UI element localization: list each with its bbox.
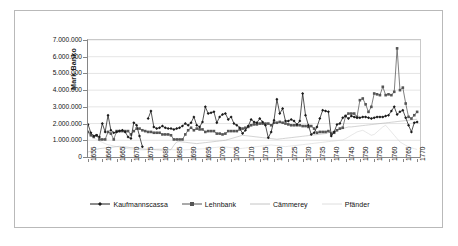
x-axis-tick-mark [346,159,347,162]
x-axis-tick-mark [360,159,361,162]
chart-page: Mark Banko 01.000.0002.000.0003.000.0004… [0,0,458,246]
x-axis-tick-label: 1705 [233,147,240,161]
x-axis-tick-mark [331,159,332,162]
legend-swatch-square-icon [182,200,202,208]
y-axis-tick-label: 3.000.000 [53,103,82,111]
series-lehnbank [88,47,418,141]
x-axis-tick-label: 1725 [291,147,298,161]
chart-legend: KaufmannscassaLehnbankCämmereyPfänder [55,197,405,211]
y-axis-tick-label: 6.000.000 [53,53,82,61]
x-axis-tick-mark [303,159,304,162]
x-axis-tick-mark [160,159,161,162]
x-axis-tick-mark [417,159,418,162]
legend-swatch-line-icon [322,200,342,208]
legend-label: Lehnbank [205,201,236,208]
y-axis-tick-label: 4.000.000 [53,86,82,94]
x-axis-tick-label: 1765 [405,147,412,161]
x-axis-tick-label: 1685 [176,147,183,161]
chart-frame: Mark Banko 01.000.0002.000.0003.000.0004… [14,10,443,228]
y-axis-tick-label: 1.000.000 [53,136,82,144]
series-canvas [88,40,420,157]
x-axis-tick-mark [88,159,89,162]
legend-swatch-line-icon [250,200,270,208]
x-axis-tick-label: 1720 [276,147,283,161]
legend-item-c-mmerey[interactable]: Cämmerey [250,200,308,208]
y-axis-tick-label: 2.000.000 [53,120,82,128]
x-axis-tick-mark [260,159,261,162]
x-axis-tick-mark [274,159,275,162]
legend-item-lehnbank[interactable]: Lehnbank [182,200,236,208]
x-axis-tick-mark [288,159,289,162]
x-axis-tick-mark [145,159,146,162]
legend-item-kaufmannscassa[interactable]: Kaufmannscassa [90,200,167,208]
x-axis-tick-mark [102,159,103,162]
x-axis-tick-label: 1750 [362,147,369,161]
x-axis-tick-label: 1770 [419,147,426,161]
x-axis-tick-mark [202,159,203,162]
x-axis-tick-label: 1715 [262,147,269,161]
plot-area [87,39,421,158]
x-axis-tick-label: 1735 [319,147,326,161]
y-axis-tick-labels: 01.000.0002.000.0003.000.0004.000.0005.0… [15,33,85,165]
x-axis-tick-mark [245,159,246,162]
x-axis-tick-mark [317,159,318,162]
x-axis-tick-label: 1675 [147,147,154,161]
x-axis-tick-label: 1690 [190,147,197,161]
x-axis-tick-labels: 1655166016651670167516801685169016951700… [87,159,423,193]
x-axis-tick-label: 1670 [133,147,140,161]
x-axis-tick-label: 1655 [90,147,97,161]
legend-label: Cämmerey [273,201,308,208]
legend-item-pf-nder[interactable]: Pfänder [322,200,370,208]
x-axis-tick-label: 1710 [248,147,255,161]
y-axis-tick-label: 5.000.000 [53,69,82,77]
x-axis-tick-mark [117,159,118,162]
x-axis-tick-label: 1660 [105,147,112,161]
x-axis-tick-label: 1755 [376,147,383,161]
x-axis-tick-label: 1695 [205,147,212,161]
x-axis-tick-mark [174,159,175,162]
legend-label: Pfänder [345,201,370,208]
x-axis-tick-label: 1740 [333,147,340,161]
x-axis-tick-mark [188,159,189,162]
y-axis-tick-label: 7.000.000 [53,36,82,44]
x-axis-tick-mark [403,159,404,162]
x-axis-tick-mark [231,159,232,162]
x-axis-tick-label: 1730 [305,147,312,161]
x-axis-tick-mark [217,159,218,162]
x-axis-tick-label: 1760 [391,147,398,161]
clipped-text-above-figure [28,0,428,2]
x-axis-tick-label: 1700 [219,147,226,161]
x-axis-tick-label: 1665 [119,147,126,161]
legend-label: Kaufmannscassa [113,201,167,208]
x-axis-tick-mark [131,159,132,162]
x-axis-tick-mark [389,159,390,162]
x-axis-tick-mark [374,159,375,162]
x-axis-tick-label: 1745 [348,147,355,161]
series-kaufmannscassa [88,92,419,148]
y-axis-tick-label: 0 [78,153,82,161]
legend-swatch-diamond-icon [90,200,110,208]
x-axis-tick-label: 1680 [162,147,169,161]
